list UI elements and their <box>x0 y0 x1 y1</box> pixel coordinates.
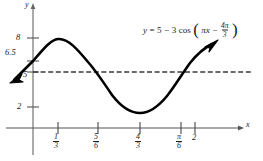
y-tick-label-5: 5 <box>23 70 27 79</box>
x-tick-label-1-3: 1 3 <box>53 133 59 150</box>
equation-annotation: y = 5 − 3 cos ( πx − 4π 3 ) <box>143 22 238 38</box>
equation-inner-pix: πx <box>201 25 210 35</box>
x-tick-label-4-3-numerator: 4 <box>135 133 141 141</box>
x-tick-label-5-6-denominator: 6 <box>93 141 99 150</box>
x-tick-label-4-3: 4 3 <box>135 133 141 150</box>
equation-equals: = <box>150 25 155 35</box>
equation-lhs: y <box>143 25 147 35</box>
equation-cos-function: cos <box>179 25 191 35</box>
x-tick-label-pi-6: π 6 <box>176 133 182 150</box>
cosine-curve <box>14 39 212 113</box>
y-tick-label-8: 8 <box>16 33 20 42</box>
equation-minus-first: − <box>164 25 169 35</box>
curve-left-arrowhead <box>10 74 23 83</box>
x-tick-label-5-6: 5 6 <box>93 133 99 150</box>
equation-phase-fraction: 4π 3 <box>220 22 230 38</box>
equation-minus-second: − <box>212 25 217 35</box>
x-tick-label-2: 2 <box>192 133 196 142</box>
curve-right-arrowhead <box>205 40 218 52</box>
x-tick-label-pi-6-numerator: π <box>176 133 182 141</box>
graph-figure: y x 8 6.5 5 2 1 3 5 6 4 3 π 6 2 y = 5 − … <box>0 0 263 161</box>
x-axis-arrowhead <box>238 126 244 131</box>
equation-close-paren: ) <box>232 23 238 35</box>
equation-phase-numerator: 4π <box>220 22 230 30</box>
equation-amplitude: 3 <box>172 25 177 35</box>
equation-phase-denominator: 3 <box>222 29 228 38</box>
y-axis-label: y <box>25 0 29 9</box>
x-tick-label-5-6-numerator: 5 <box>93 133 99 141</box>
x-tick-label-1-3-denominator: 3 <box>53 141 59 150</box>
x-tick-label-4-3-denominator: 3 <box>135 141 141 150</box>
y-axis-arrowhead <box>31 3 36 9</box>
equation-constant: 5 <box>157 25 162 35</box>
x-tick-label-1-3-numerator: 1 <box>53 133 59 141</box>
x-axis-label: x <box>246 120 250 129</box>
x-tick-label-pi-6-denominator: 6 <box>176 141 182 150</box>
y-tick-label-6point5: 6.5 <box>5 48 16 57</box>
y-tick-label-2: 2 <box>17 102 21 111</box>
equation-open-paren: ( <box>193 23 199 35</box>
